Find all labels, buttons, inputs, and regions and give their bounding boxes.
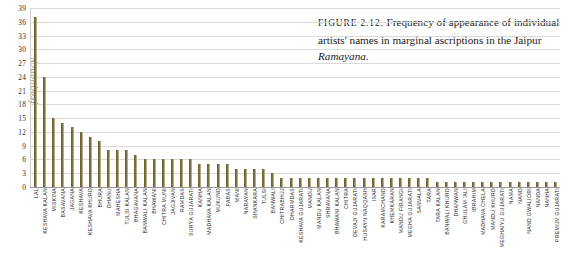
bar[interactable] bbox=[554, 182, 557, 187]
bar[interactable] bbox=[408, 178, 411, 187]
x-label-slot: SURYA GUJARATI bbox=[186, 188, 195, 272]
bar[interactable] bbox=[116, 150, 119, 187]
bar[interactable] bbox=[207, 164, 210, 187]
bar[interactable] bbox=[80, 132, 83, 187]
bar-slot bbox=[551, 8, 560, 187]
bar[interactable] bbox=[107, 150, 110, 187]
bar-slot bbox=[533, 8, 542, 187]
bar-slot bbox=[86, 8, 95, 187]
x-label-slot: MANDU FIRANGI bbox=[397, 188, 406, 272]
x-label-slot: BANWALI KALAN bbox=[141, 188, 150, 272]
bar[interactable] bbox=[144, 159, 147, 187]
bar[interactable] bbox=[162, 159, 165, 187]
bar[interactable] bbox=[499, 182, 502, 187]
bar-slot bbox=[214, 8, 223, 187]
bar[interactable] bbox=[71, 127, 74, 187]
bar[interactable] bbox=[317, 178, 320, 187]
bar[interactable] bbox=[445, 182, 448, 187]
x-axis-tick-label: CHITRA bbox=[343, 188, 349, 209]
bar[interactable] bbox=[98, 141, 101, 187]
x-label-slot: GHULAM 'ALI bbox=[461, 188, 470, 272]
bar[interactable] bbox=[89, 137, 92, 187]
bar[interactable] bbox=[463, 182, 466, 187]
bar[interactable] bbox=[518, 182, 521, 187]
x-label-slot: KESHAVA bbox=[77, 188, 86, 272]
bar[interactable] bbox=[217, 164, 220, 187]
bar-slot bbox=[259, 8, 268, 187]
x-label-slot: BHAWANI bbox=[150, 188, 159, 272]
x-axis-tick-label: DEVAJI GUJARATI bbox=[352, 188, 358, 237]
bar-slot bbox=[131, 8, 140, 187]
x-axis-tick-label: BHAWANI KALAN bbox=[334, 188, 340, 234]
x-label-slot: MANDU bbox=[305, 188, 314, 272]
bar[interactable] bbox=[372, 178, 375, 187]
x-axis-tick-label: MEGHA GUJARATI bbox=[407, 188, 413, 238]
bar[interactable] bbox=[43, 77, 46, 187]
bar[interactable] bbox=[235, 169, 238, 187]
x-label-slot: CHITRA bbox=[342, 188, 351, 272]
bar[interactable] bbox=[353, 178, 356, 187]
bar[interactable] bbox=[280, 178, 283, 187]
y-axis-tick-label: 24 bbox=[18, 72, 30, 81]
bar[interactable] bbox=[198, 164, 201, 187]
y-axis-tick-label: 21 bbox=[18, 86, 30, 95]
bar[interactable] bbox=[381, 178, 384, 187]
bar[interactable] bbox=[490, 182, 493, 187]
x-axis-tick-label: TARA bbox=[426, 188, 432, 203]
bar[interactable] bbox=[454, 182, 457, 187]
bar[interactable] bbox=[481, 182, 484, 187]
bar[interactable] bbox=[436, 182, 439, 187]
x-label-slot: NAND bbox=[515, 188, 524, 272]
x-axis-tick-label: BHAGAVANA bbox=[133, 188, 139, 222]
bar[interactable] bbox=[253, 169, 256, 187]
bar-slot bbox=[451, 8, 460, 187]
bar[interactable] bbox=[34, 17, 37, 187]
x-label-slot: DEVAJI GUJARATI bbox=[351, 188, 360, 272]
bar[interactable] bbox=[171, 159, 174, 187]
bar[interactable] bbox=[399, 178, 402, 187]
bar[interactable] bbox=[52, 118, 55, 187]
x-label-slot: JAGANA bbox=[68, 188, 77, 272]
bar-slot bbox=[277, 8, 286, 187]
x-axis-labels-group: LALKESHAVA KALANMISKINABASAVANAJAGANAKES… bbox=[31, 188, 561, 272]
bar[interactable] bbox=[308, 178, 311, 187]
bar[interactable] bbox=[335, 178, 338, 187]
x-label-slot: TULSI bbox=[260, 188, 269, 272]
bar[interactable] bbox=[180, 159, 183, 187]
bar[interactable] bbox=[426, 178, 429, 187]
bar-slot bbox=[287, 8, 296, 187]
bar[interactable] bbox=[189, 159, 192, 187]
bar[interactable] bbox=[344, 178, 347, 187]
x-axis-tick-label: DHARMDAS bbox=[289, 188, 295, 220]
bar[interactable] bbox=[244, 169, 247, 187]
bar-slot bbox=[314, 8, 323, 187]
bar[interactable] bbox=[271, 173, 274, 187]
bar[interactable] bbox=[290, 178, 293, 187]
bar[interactable] bbox=[509, 182, 512, 187]
bar[interactable] bbox=[299, 178, 302, 187]
bar[interactable] bbox=[536, 182, 539, 187]
bar-slot bbox=[95, 8, 104, 187]
bar[interactable] bbox=[125, 150, 128, 187]
bar[interactable] bbox=[545, 182, 548, 187]
x-label-slot: KESHAVA GUJARATI bbox=[296, 188, 305, 272]
bar-slot bbox=[186, 8, 195, 187]
x-label-slot: NARAYAN bbox=[241, 188, 250, 272]
y-axis-tick-label: 30 bbox=[18, 45, 30, 54]
bar[interactable] bbox=[153, 159, 156, 187]
x-axis-tick-label: BASAVANA bbox=[60, 188, 66, 218]
bar[interactable] bbox=[226, 164, 229, 187]
bar[interactable] bbox=[61, 123, 64, 187]
x-axis-tick-label: BHURA bbox=[97, 188, 103, 208]
bar-slot bbox=[496, 8, 505, 187]
bar[interactable] bbox=[363, 178, 366, 187]
bar[interactable] bbox=[262, 169, 265, 187]
bar[interactable] bbox=[527, 182, 530, 187]
bar[interactable] bbox=[390, 178, 393, 187]
x-axis-tick-label: MANDU FIRANGI bbox=[398, 188, 404, 233]
bar[interactable] bbox=[134, 155, 137, 187]
bar[interactable] bbox=[472, 182, 475, 187]
x-axis-tick-label: CHITRA MUNI bbox=[161, 188, 167, 225]
bar[interactable] bbox=[417, 178, 420, 187]
bar[interactable] bbox=[326, 178, 329, 187]
